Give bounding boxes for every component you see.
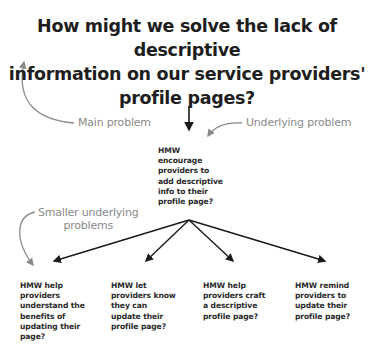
node-line: HMW let [111,281,176,291]
node-line: info to their [158,187,223,197]
node-line: providers to [295,291,350,301]
node-line: update their [295,301,350,311]
node-line: HMW remind [295,281,350,291]
node-line: profile page? [158,197,223,207]
node-line: HMW [158,146,223,156]
node-line: HMW help [20,281,85,291]
node-line: understand the [20,301,85,311]
underlying-problem-annotation-arrow [208,123,242,136]
node-line: they can [111,301,176,311]
node-line: page? [20,332,85,342]
node-line: benefits of [20,312,85,322]
node-line: profile page? [295,312,350,322]
smaller-underlying-problems-label: Smaller underlying problems [38,206,139,232]
smaller-problems-annotation-arrow [20,212,35,265]
main-problem-line-2: information on our service providers' [0,62,374,86]
node-line: profile page? [203,312,265,322]
node-line: update their [111,312,176,322]
node-line: providers craft [203,291,265,301]
smaller-underlying-label-line-1: Smaller underlying [38,206,139,219]
smaller-problem-node-3: HMW help providers craft a descriptive p… [203,281,265,322]
smaller-problem-node-2: HMW let providers know they can update t… [111,281,176,332]
smaller-problem-node-1: HMW help providers understand the benefi… [20,281,85,342]
underlying-problem-label: Underlying problem [246,116,351,129]
smaller-underlying-label-line-2: problems [38,219,139,232]
node-line: providers know [111,291,176,301]
node-line: profile page? [111,322,176,332]
main-problem-line-1: How might we solve the lack of descripti… [0,14,374,62]
node-line: providers [20,291,85,301]
branch-arrow-4 [189,220,325,261]
node-line: updating their [20,322,85,332]
main-problem-line-3: profile pages? [0,86,374,110]
node-line: encourage [158,156,223,166]
smaller-problem-node-4: HMW remind providers to update their pro… [295,281,350,322]
node-line: HMW help [203,281,265,291]
node-line: providers to [158,166,223,176]
underlying-problem-node: HMW encourage providers to add descripti… [158,146,223,207]
node-line: add descriptive [158,177,223,187]
main-problem-label: Main problem [78,116,151,129]
main-problem-title: How might we solve the lack of descripti… [0,14,374,110]
node-line: a descriptive [203,301,265,311]
